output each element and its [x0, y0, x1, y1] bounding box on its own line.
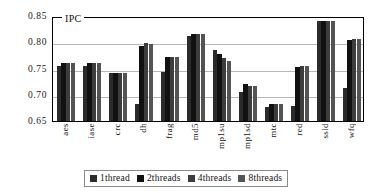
bar	[92, 63, 96, 121]
x-axis-labels: aesiasecrcdhfragmd5mp1sump1sdmtcredssldw…	[52, 123, 364, 165]
bar-group	[57, 18, 76, 121]
bar-group	[239, 18, 258, 121]
legend-swatch-icon	[188, 175, 195, 182]
bar-group	[291, 18, 310, 121]
bar-group	[135, 18, 154, 121]
bar-group	[161, 18, 180, 121]
bar	[191, 34, 195, 121]
legend-label: 1thread	[100, 174, 130, 184]
x-axis-tick-label: crc	[113, 123, 122, 135]
y-axis-tick-label: 0.65	[0, 117, 47, 127]
legend-swatch-icon	[90, 175, 97, 182]
bar	[66, 63, 70, 121]
bar-group	[317, 18, 336, 121]
bar	[274, 104, 278, 121]
bar	[248, 86, 252, 121]
bar	[175, 57, 179, 121]
legend-entry: 1thread	[90, 174, 130, 184]
bar	[118, 73, 122, 121]
bar	[144, 43, 148, 121]
bar	[217, 54, 221, 121]
y-axis: 0.850.800.750.700.65	[0, 0, 47, 193]
y-axis-tick-label: 0.85	[0, 12, 47, 22]
bar	[222, 58, 226, 121]
bar	[279, 104, 283, 121]
chart-legend: 1thread2threads4threads8threads	[84, 170, 288, 187]
bar	[357, 39, 361, 121]
bar	[170, 57, 174, 121]
bar	[300, 66, 304, 121]
legend-entry: 4threads	[188, 174, 232, 184]
x-axis-tick-label: mtc	[269, 123, 278, 138]
bar	[317, 21, 321, 121]
chart-title: IPC	[62, 13, 84, 24]
bar	[352, 39, 356, 121]
ipc-bar-chart: 0.850.800.750.700.65 IPC aesiasecrcdhfra…	[0, 0, 370, 193]
bar	[243, 84, 247, 121]
bar-group	[265, 18, 284, 121]
x-axis-tick-label: aes	[61, 123, 70, 136]
bar	[227, 61, 231, 121]
bar	[135, 104, 139, 121]
bar	[265, 107, 269, 121]
bar	[87, 63, 91, 121]
bar	[326, 21, 330, 121]
plot-area	[52, 17, 364, 122]
bar-group	[343, 18, 362, 121]
bar	[269, 104, 273, 121]
legend-label: 2threads	[147, 174, 181, 184]
bar	[139, 46, 143, 121]
legend-label: 8threads	[248, 174, 282, 184]
x-axis-tick-label: mp1su	[217, 123, 226, 149]
y-axis-tick-label: 0.70	[0, 91, 47, 101]
y-axis-tick-label: 0.80	[0, 39, 47, 49]
x-axis-tick-label: md5	[191, 123, 200, 140]
legend-entry: 2threads	[137, 174, 181, 184]
legend-swatch-icon	[238, 175, 245, 182]
bar-group	[109, 18, 128, 121]
bar	[347, 40, 351, 121]
y-axis-tick-label: 0.75	[0, 65, 47, 75]
bar	[165, 57, 169, 121]
x-axis-tick-label: ssld	[321, 123, 330, 139]
bar-group	[187, 18, 206, 121]
x-axis-tick-label: dh	[139, 123, 148, 133]
bar	[295, 67, 299, 121]
x-axis-tick-label: red	[295, 123, 304, 136]
bar	[83, 66, 87, 121]
bar	[161, 72, 165, 121]
bar	[71, 63, 75, 121]
bar	[239, 92, 243, 121]
bar	[253, 86, 257, 121]
bar	[109, 73, 113, 121]
bar	[113, 73, 117, 121]
bar	[305, 66, 309, 121]
bar	[57, 66, 61, 121]
x-axis-tick-label: frag	[165, 123, 174, 139]
legend-swatch-icon	[137, 175, 144, 182]
bar	[149, 44, 153, 121]
bar	[213, 50, 217, 121]
bar	[196, 34, 200, 121]
x-axis-tick-label: mp1sd	[243, 123, 252, 149]
bar	[291, 106, 295, 121]
legend-label: 4threads	[198, 174, 232, 184]
bar	[331, 21, 335, 121]
bar-group	[213, 18, 232, 121]
bar	[61, 63, 65, 121]
bar	[201, 34, 205, 121]
bar	[187, 36, 191, 121]
bar	[321, 21, 325, 121]
bar	[343, 88, 347, 121]
bar	[97, 63, 101, 121]
x-axis-tick-label: iase	[87, 123, 96, 139]
legend-entry: 8threads	[238, 174, 282, 184]
bars-layer	[53, 18, 363, 121]
bar-group	[83, 18, 102, 121]
bar	[123, 73, 127, 121]
x-axis-tick-label: wfq	[347, 123, 356, 138]
